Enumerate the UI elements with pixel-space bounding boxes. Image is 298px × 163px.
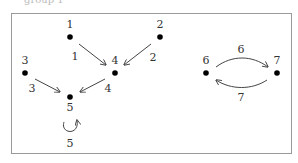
edge-label: 2 <box>150 51 157 64</box>
diagram-stage: group 1 1234567 1234567 <box>0 0 298 163</box>
graph-frame <box>12 14 292 154</box>
node-6 <box>203 70 209 76</box>
edge-label: 3 <box>29 82 36 95</box>
edge-1-to-4 <box>79 44 106 65</box>
clipped-caption: group 1 <box>24 0 64 5</box>
node-5 <box>67 94 73 100</box>
node-label: 2 <box>157 18 164 31</box>
edge-5-to-5 <box>63 120 77 132</box>
node-label: 5 <box>67 101 74 114</box>
node-7 <box>274 70 280 76</box>
node-label: 3 <box>22 54 29 67</box>
edge-label: 7 <box>238 91 245 104</box>
edge-7-to-6 <box>216 80 267 88</box>
node-1 <box>67 34 73 40</box>
edges-layer: 1234567 <box>29 43 269 150</box>
edge-label: 1 <box>72 50 79 63</box>
node-3 <box>22 70 28 76</box>
node-label: 7 <box>274 54 281 67</box>
directed-graph: 1234567 1234567 <box>0 0 298 163</box>
edge-4-to-5 <box>80 79 105 92</box>
node-label: 1 <box>67 18 74 31</box>
node-4 <box>112 70 118 76</box>
node-2 <box>157 34 163 40</box>
edge-label: 4 <box>105 82 112 95</box>
node-label: 6 <box>203 54 210 67</box>
edge-2-to-4 <box>124 44 151 65</box>
edge-label: 6 <box>238 43 245 56</box>
edge-label: 5 <box>67 137 74 150</box>
edge-6-to-7 <box>216 58 268 67</box>
edge-3-to-5 <box>35 79 60 92</box>
node-label: 4 <box>112 54 119 67</box>
